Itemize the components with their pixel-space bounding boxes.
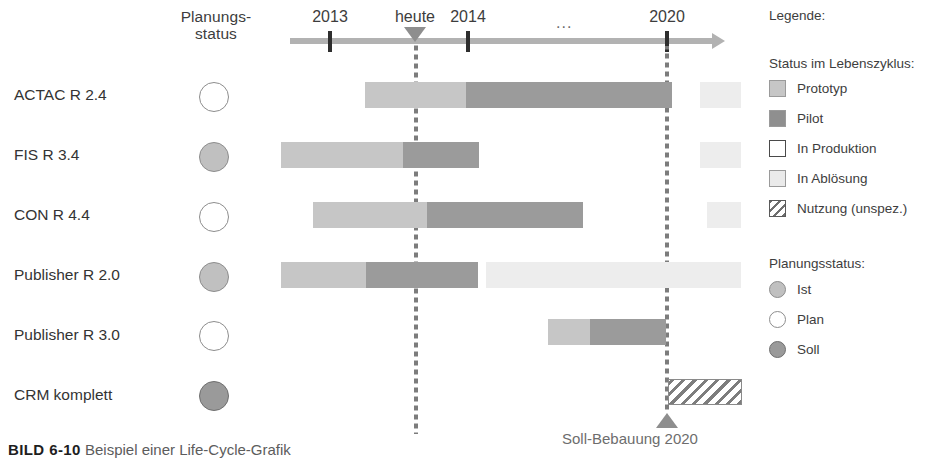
bar-segment-publisher20-abloesung xyxy=(486,262,741,288)
legend-lifecycle-title: Status im Lebenszyklus: xyxy=(769,56,915,71)
legend-item-ist: Ist xyxy=(769,281,811,298)
planungsstatus-column-header: Planungs- status xyxy=(168,8,264,42)
bar-segment-actac-prototyp xyxy=(365,82,466,108)
ist-circle-icon xyxy=(769,281,786,298)
soll-bebauung-marker-icon xyxy=(656,413,678,428)
timeline-tick-2013 xyxy=(328,31,332,52)
bar-segment-crm-nutzung xyxy=(668,379,742,405)
bar-segment-actac-abloesung xyxy=(700,82,741,108)
pilot-swatch-icon xyxy=(769,110,786,127)
bar-segment-publisher30-prototyp xyxy=(548,319,590,345)
status-circle-crm xyxy=(199,381,229,411)
timeline-label-2020: 2020 xyxy=(637,8,697,26)
row-label-con: CON R 4.4 xyxy=(14,206,90,224)
soll-bebauung-label: Soll-Bebauung 2020 xyxy=(562,430,698,447)
legend-label-in-produktion: In Produktion xyxy=(797,141,877,156)
bar-segment-fis-abloesung xyxy=(700,142,741,168)
legend-planungsstatus-title: Planungsstatus: xyxy=(769,256,865,271)
figure-caption-text: Beispiel einer Life-Cycle-Grafik xyxy=(85,441,291,458)
planungsstatus-header-line2: status xyxy=(168,25,264,42)
bar-segment-fis-pilot xyxy=(403,142,479,168)
bar-segment-actac-pilot xyxy=(466,82,672,108)
nutzung-swatch-icon xyxy=(769,200,786,217)
legend-item-plan: Plan xyxy=(769,311,824,328)
row-label-crm: CRM komplett xyxy=(14,386,112,404)
legend-item-in-produktion: In Produktion xyxy=(769,140,877,157)
legend-item-soll: Soll xyxy=(769,341,820,358)
soll-circle-icon xyxy=(769,341,786,358)
row-label-fis: FIS R 3.4 xyxy=(14,146,79,164)
legend-title: Legende: xyxy=(769,8,825,23)
legend-item-prototyp: Prototyp xyxy=(769,80,847,97)
in-abloesung-swatch-icon xyxy=(769,170,786,187)
plan-circle-icon xyxy=(769,311,786,328)
legend-item-in-abloesung: In Ablösung xyxy=(769,170,868,187)
timeline-label-2013: 2013 xyxy=(300,8,360,26)
status-circle-con xyxy=(199,202,229,232)
legend-item-pilot: Pilot xyxy=(769,110,823,127)
row-label-publisher-20: Publisher R 2.0 xyxy=(14,266,120,284)
legend-label-nutzung: Nutzung (unspez.) xyxy=(797,201,907,216)
bar-segment-publisher20-prototyp xyxy=(281,262,366,288)
bar-segment-fis-prototyp xyxy=(281,142,403,168)
row-label-publisher-30: Publisher R 3.0 xyxy=(14,326,120,344)
prototyp-swatch-icon xyxy=(769,80,786,97)
legend-label-soll: Soll xyxy=(797,342,820,357)
figure-caption: BILD 6-10 Beispiel einer Life-Cycle-Graf… xyxy=(8,441,291,458)
in-produktion-swatch-icon xyxy=(769,140,786,157)
bar-segment-publisher30-pilot xyxy=(590,319,666,345)
status-circle-fis xyxy=(199,142,229,172)
bar-segment-con-abloesung xyxy=(707,202,741,228)
legend-label-ist: Ist xyxy=(797,282,811,297)
bar-segment-publisher20-pilot xyxy=(366,262,478,288)
legend-item-nutzung: Nutzung (unspez.) xyxy=(769,200,907,217)
timeline-ellipsis: ... xyxy=(556,14,572,32)
legend-label-in-abloesung: In Ablösung xyxy=(797,171,868,186)
bar-segment-con-pilot xyxy=(427,202,583,228)
figure-caption-number: BILD 6-10 xyxy=(8,441,81,458)
bar-segment-con-prototyp xyxy=(313,202,427,228)
timeline-axis xyxy=(290,38,714,44)
legend-label-prototyp: Prototyp xyxy=(797,81,847,96)
status-circle-publisher-30 xyxy=(199,321,229,351)
row-label-actac: ACTAC R 2.4 xyxy=(14,86,107,104)
legend-label-plan: Plan xyxy=(797,312,824,327)
legend-label-pilot: Pilot xyxy=(797,111,823,126)
status-circle-publisher-20 xyxy=(199,262,229,292)
life-cycle-chart: Planungs- status 2013 2014 2020 ... heut… xyxy=(0,0,927,460)
status-circle-actac xyxy=(199,82,229,112)
timeline-arrow-icon xyxy=(712,33,725,49)
timeline-tick-2014 xyxy=(466,31,470,52)
timeline-label-heute: heute xyxy=(377,8,453,26)
heute-marker-icon xyxy=(404,27,426,42)
planungsstatus-header-line1: Planungs- xyxy=(168,8,264,25)
